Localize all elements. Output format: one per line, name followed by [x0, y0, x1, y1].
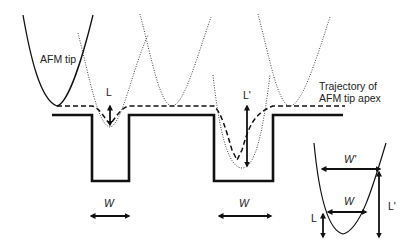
trajectory-label-line2: AFM tip apex [319, 92, 382, 104]
inset-L-label: L [311, 212, 317, 224]
inset-W-prime-label: W' [344, 153, 357, 165]
afm-tip-diagram: L L' AFM tip Trajectory of AFM tip apex … [0, 0, 410, 242]
dotted-tip-3 [213, 75, 270, 168]
W-left-label: W [104, 197, 115, 209]
L-prime-label: L' [243, 89, 251, 101]
dotted-tip-positions [78, 14, 330, 168]
dotted-tip-1 [78, 33, 148, 127]
surface-profile [52, 115, 343, 181]
trajectory-label-line1: Trajectory of [319, 80, 377, 92]
W-right-label: W [239, 197, 250, 209]
dotted-tip-2 [140, 14, 211, 106]
inset-W-label: W [344, 195, 355, 207]
inset-L-prime-label: L' [388, 200, 396, 212]
diagram-canvas: L L' AFM tip Trajectory of AFM tip apex … [0, 0, 410, 242]
L-label: L [106, 86, 112, 98]
afm-tip-label: AFM tip [40, 53, 76, 65]
